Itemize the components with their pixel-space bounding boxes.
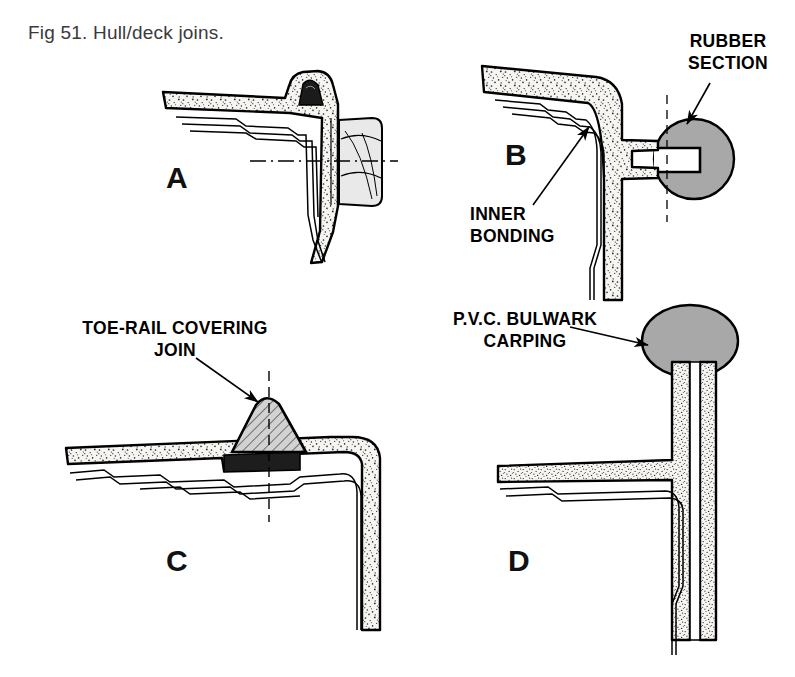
panel-d-pvc-capping	[642, 305, 738, 377]
panel-b-rubber-section	[654, 119, 734, 199]
callout-inner-bonding-line2: BONDING	[470, 225, 555, 247]
callout-toe-rail-line2: JOIN	[58, 339, 292, 361]
panel-a-grp-section	[163, 71, 338, 263]
panel-c-join-seam	[224, 452, 300, 472]
callout-toe-rail-line1: TOE-RAIL COVERING	[58, 317, 292, 339]
panel-c-drawing	[66, 358, 380, 630]
panel-b-rubber-leader	[687, 83, 710, 124]
panel-a-bolt-head	[299, 80, 323, 105]
panel-b-drawing	[482, 66, 734, 300]
callout-rubber-section: RUBBER SECTION	[668, 30, 788, 75]
panel-a-rubber-fender	[339, 118, 382, 206]
panel-c-grp-section	[66, 437, 380, 630]
callout-inner-bonding-line1: INNER	[470, 203, 555, 225]
panel-letter-a: A	[166, 163, 188, 193]
panel-d-drawing	[498, 305, 738, 655]
panel-c-laminate-layers	[70, 470, 361, 630]
panel-c-toe-rail	[232, 398, 306, 452]
callout-toe-rail-covering-join: TOE-RAIL COVERING JOIN	[58, 317, 292, 362]
panel-letter-d: D	[508, 546, 530, 576]
callout-rubber-section-line2: SECTION	[668, 52, 788, 74]
panel-d-grp-section	[498, 362, 716, 640]
figure-hull-deck-joins: Fig 51. Hull/deck joins. A B C D RUBBER …	[0, 0, 795, 677]
panel-b-grp-section	[482, 66, 658, 300]
panel-a-laminate-layers	[176, 117, 325, 263]
callout-rubber-section-line1: RUBBER	[668, 30, 788, 52]
callout-inner-bonding: INNER BONDING	[470, 203, 555, 248]
panel-a-drawing	[163, 71, 398, 263]
panel-c-toe-rail-leader	[196, 358, 258, 402]
panel-b-laminate-layers	[495, 100, 604, 300]
callout-pvc-line2: CARPING	[432, 330, 618, 352]
callout-pvc-line1: P.V.C. BULWARK	[432, 308, 618, 330]
panel-a-joint-flange	[331, 110, 338, 206]
panel-letter-b: B	[505, 140, 527, 170]
figure-caption: Fig 51. Hull/deck joins.	[28, 22, 224, 44]
panel-d-joint-radius	[690, 362, 700, 640]
panel-b-bonding-leader	[533, 127, 589, 205]
callout-pvc-bulwark-carping: P.V.C. BULWARK CARPING	[432, 308, 618, 353]
panel-letter-c: C	[166, 546, 188, 576]
